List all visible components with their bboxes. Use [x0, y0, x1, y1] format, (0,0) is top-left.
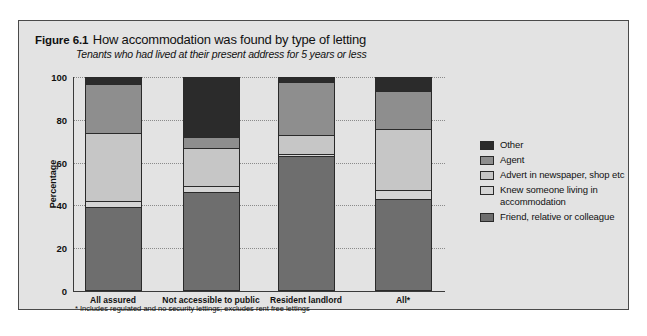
bar-segment	[376, 78, 431, 91]
bar-segment	[376, 190, 431, 198]
y-tick-label-100: 100	[51, 72, 67, 83]
plot-area: Percentage 020406080100 All assuredNot a…	[73, 77, 445, 291]
legend-swatch-icon	[480, 171, 494, 180]
bar-segment	[184, 148, 239, 186]
legend-label: Knew someone living in accommodation	[500, 184, 630, 208]
legend-item-5[interactable]: Friend, relative or colleague	[480, 211, 630, 223]
bar-segment	[86, 207, 141, 290]
legend-swatch-icon	[480, 156, 494, 165]
figure-number: Figure 6.1	[35, 34, 88, 46]
bar-segment	[376, 129, 431, 190]
y-tick-label-20: 20	[56, 243, 67, 254]
figure-heading: Figure 6.1 How accommodation was found b…	[35, 30, 366, 48]
bar-segment	[184, 192, 239, 290]
bar-segment	[279, 135, 334, 154]
figure-subtitle: Tenants who had lived at their present a…	[76, 48, 367, 60]
bar-4[interactable]	[375, 77, 432, 291]
y-tick-label-60: 60	[56, 157, 67, 168]
y-axis-line	[73, 77, 74, 291]
y-tick-label-40: 40	[56, 200, 67, 211]
legend-item-3[interactable]: Advert in newspaper, shop etc	[480, 169, 630, 181]
legend-label: Agent	[500, 154, 524, 166]
legend-swatch-icon	[480, 186, 494, 195]
bar-3[interactable]	[278, 77, 335, 291]
bar-1[interactable]	[85, 77, 142, 291]
bar-segment	[184, 137, 239, 148]
legend-label: Other	[500, 139, 523, 151]
x-axis-line	[73, 291, 445, 292]
bar-segment	[279, 82, 334, 135]
bar-segment	[86, 84, 141, 133]
figure-panel: Figure 6.1 How accommodation was found b…	[18, 20, 629, 310]
legend-swatch-icon	[480, 213, 494, 222]
legend-item-2[interactable]: Agent	[480, 154, 630, 166]
bar-segment	[86, 133, 141, 201]
legend: OtherAgentAdvert in newspaper, shop etcK…	[480, 139, 630, 226]
legend-swatch-icon	[480, 141, 494, 150]
bar-segment	[376, 91, 431, 129]
legend-label: Friend, relative or colleague	[500, 211, 614, 223]
legend-item-4[interactable]: Knew someone living in accommodation	[480, 184, 630, 208]
footnote: * Includes regulated and no security let…	[75, 304, 310, 313]
bar-segment	[184, 78, 239, 137]
bar-segment	[279, 156, 334, 290]
y-tick-label-80: 80	[56, 114, 67, 125]
bar-2[interactable]	[183, 77, 240, 291]
figure-page: Figure 6.1 How accommodation was found b…	[0, 0, 647, 336]
page-title: How accommodation was found by type of l…	[93, 32, 366, 47]
legend-item-1[interactable]: Other	[480, 139, 630, 151]
bar-segment	[376, 199, 431, 290]
legend-label: Advert in newspaper, shop etc	[500, 169, 624, 181]
x-tick-label-4: All*	[343, 295, 463, 305]
